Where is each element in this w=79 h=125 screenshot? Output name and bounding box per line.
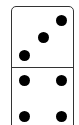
bottom-pip-icon [56,111,67,122]
bottom-pip-icon [19,75,30,86]
top-pip-icon [19,50,30,61]
top-pip-icon [38,32,49,43]
bottom-pip-icon [56,75,67,86]
bottom-pip-icon [19,111,30,122]
domino-divider [11,67,74,68]
top-pip-icon [56,15,67,26]
